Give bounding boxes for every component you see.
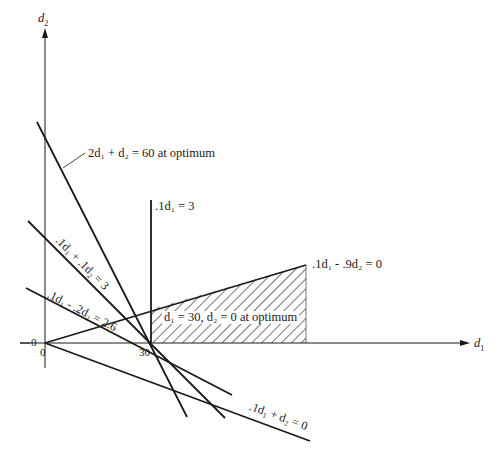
objective-leader bbox=[63, 153, 85, 168]
label-c1: .1d₁ = 3 bbox=[155, 200, 195, 213]
arrow-right-icon bbox=[460, 340, 470, 346]
line-objective bbox=[37, 122, 187, 417]
d1-axis-label: d1 bbox=[474, 337, 484, 353]
origin-label-y: 0 bbox=[31, 337, 37, 348]
lp-figure: d2 d1 0 0 30 2d₁ + d₂ = 60 at optimum .1… bbox=[0, 0, 499, 457]
optimum-label: d₁ = 30, d₂ = 0 at optimum bbox=[162, 311, 299, 324]
label-objective: 2d₁ + d₂ = 60 at optimum bbox=[88, 147, 215, 160]
origin-label-x: 0 bbox=[40, 347, 46, 358]
d2-axis-label: d2 bbox=[38, 12, 48, 28]
graph-canvas bbox=[0, 0, 499, 457]
line-c5 bbox=[45, 343, 310, 441]
arrow-up-icon bbox=[42, 28, 48, 38]
d2-axis bbox=[42, 28, 48, 368]
tick-label-30: 30 bbox=[139, 347, 150, 358]
label-c4: .1d₁ - .9d₂ = 0 bbox=[312, 258, 382, 271]
